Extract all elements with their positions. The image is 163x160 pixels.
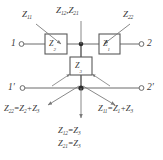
label-terminal-2: 2 — [147, 38, 152, 48]
equation-z22: Z22=Z2+Z3 — [4, 104, 39, 113]
label-terminal-1: 1 — [11, 38, 16, 48]
circuit-schematic-svg — [0, 0, 163, 160]
terminal-node-2 — [139, 42, 144, 47]
terminal-node-1-prime — [20, 86, 25, 91]
label-terminal-1-prime: 1′ — [8, 82, 15, 92]
annotation-z22: Z22 — [123, 10, 133, 19]
annotation-z11: Z11 — [22, 10, 32, 19]
equation-z12: Z12=Z3 — [58, 126, 81, 135]
circuit-diagram-figure: Z11 Z12,Z21 Z22 Z2 Z1 Z3 1 2 1′ 2′ Z22=Z… — [0, 0, 163, 160]
label-impedance-z1: Z1 — [103, 39, 110, 50]
terminal-node-2-prime — [139, 86, 144, 91]
equation-z21: Z21=Z3 — [58, 139, 81, 148]
label-impedance-z3: Z3 — [75, 61, 82, 72]
label-impedance-z2: Z2 — [49, 39, 56, 50]
equation-z11: Z11=Z1+Z3 — [98, 104, 133, 113]
leader-arrow-z22-eq — [48, 86, 79, 105]
annotation-z12-z21: Z12,Z21 — [56, 6, 79, 15]
terminal-node-1 — [19, 42, 24, 47]
label-terminal-2-prime: 2′ — [147, 82, 154, 92]
